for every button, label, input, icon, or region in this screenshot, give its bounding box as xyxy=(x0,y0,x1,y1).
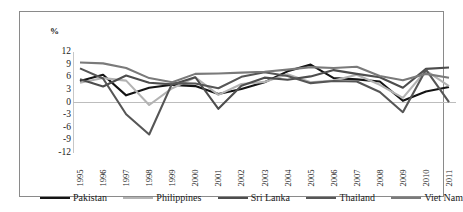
series-line-philippines xyxy=(80,71,449,106)
y-tick-label: -3 xyxy=(63,110,71,120)
legend-item-label: Sri Lanka xyxy=(251,193,290,203)
legend-item-pakistan[interactable]: Pakistan xyxy=(40,193,107,203)
legend-item-viet-nam[interactable]: Viet Nam xyxy=(391,193,463,203)
y-axis-tick-labels: 129630-3-6-9-12 xyxy=(42,46,71,160)
y-tick-label: 0 xyxy=(66,98,71,108)
legend-item-thailand[interactable]: Thailand xyxy=(306,193,375,203)
legend-line-swatch xyxy=(218,197,248,199)
y-tick-label: -9 xyxy=(63,135,71,145)
x-tick-label: 2000 xyxy=(191,169,200,186)
legend-item-label: Pakistan xyxy=(73,193,107,203)
x-tick-label: 2010 xyxy=(421,169,430,186)
legend-item-label: Philippines xyxy=(156,193,201,203)
y-tick-label: 12 xyxy=(62,47,72,57)
y-tick-label: -12 xyxy=(58,148,71,158)
x-tick-label: 2007 xyxy=(352,169,361,186)
plot-area xyxy=(73,52,456,153)
legend-item-label: Viet Nam xyxy=(424,193,463,203)
x-tick-label: 1998 xyxy=(145,169,154,186)
x-tick-label: 2004 xyxy=(283,169,292,186)
x-tick-label: 1995 xyxy=(76,169,85,186)
x-tick-label: 2003 xyxy=(260,169,269,186)
x-tick-label: 2009 xyxy=(398,169,407,186)
y-tick-label: -6 xyxy=(63,123,71,133)
y-tick-label: 9 xyxy=(66,60,71,70)
x-tick-label: 1999 xyxy=(168,169,177,186)
chart-frame: % 129630-3-6-9-12 1995199619971998199920… xyxy=(19,11,444,197)
x-tick-label: 2011 xyxy=(445,169,454,186)
x-tick-label: 2005 xyxy=(306,169,315,186)
x-tick-label: 1996 xyxy=(99,169,108,186)
series-canvas xyxy=(73,52,456,153)
x-tick-label: 2006 xyxy=(329,169,338,186)
legend-line-swatch xyxy=(391,197,421,199)
legend-item-sri-lanka[interactable]: Sri Lanka xyxy=(218,193,290,203)
legend-item-label: Thailand xyxy=(339,193,375,203)
x-tick-label: 1997 xyxy=(122,169,131,186)
legend-line-swatch xyxy=(123,197,153,199)
legend-line-swatch xyxy=(40,197,70,199)
x-tick-label: 2008 xyxy=(375,169,384,186)
chart-legend: PakistanPhilippinesSri LankaThailandViet… xyxy=(40,188,463,208)
x-axis-tick-labels: 1995199619971998199920002001200220032004… xyxy=(73,154,456,186)
y-tick-label: 3 xyxy=(66,85,71,95)
x-tick-label: 2002 xyxy=(237,169,246,186)
x-tick-label: 2001 xyxy=(214,169,223,186)
legend-item-philippines[interactable]: Philippines xyxy=(123,193,201,203)
y-tick-label: 6 xyxy=(66,72,71,82)
legend-line-swatch xyxy=(306,197,336,199)
y-axis-unit-label: % xyxy=(50,26,59,36)
